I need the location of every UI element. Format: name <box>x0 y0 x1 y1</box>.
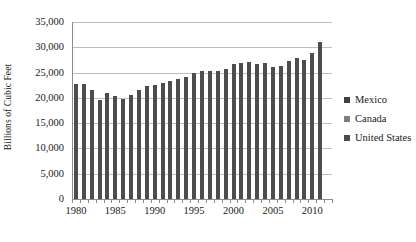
bar-slot <box>206 22 214 199</box>
legend-item[interactable]: United States <box>344 130 416 146</box>
x-axis-tick <box>96 199 97 203</box>
bar <box>145 86 149 199</box>
legend-item-label: Canada <box>355 114 387 125</box>
legend-item[interactable]: Canada <box>344 111 416 127</box>
x-axis-tick <box>245 199 246 203</box>
bar-slot <box>316 22 324 199</box>
bar <box>82 84 86 199</box>
chart-container: Billions of Cubic Feet 05,00010,00015,00… <box>0 0 416 242</box>
bar-slot <box>119 22 127 199</box>
x-axis-tick <box>127 199 128 203</box>
bar <box>232 64 236 199</box>
x-axis-tick-label: 1985 <box>105 206 126 217</box>
bar-slot <box>261 22 269 199</box>
bar <box>287 61 291 199</box>
x-axis-tick <box>206 199 207 203</box>
bar-slot <box>253 22 261 199</box>
y-axis-tick-label: 30,000 <box>35 42 64 53</box>
y-axis-tick-label: 35,000 <box>35 17 64 28</box>
x-axis-tick-label: 1995 <box>184 206 205 217</box>
bar <box>310 53 314 199</box>
y-axis-tick-label: 5,000 <box>40 169 64 180</box>
chart-legend: MexicoCanadaUnited States <box>344 92 416 149</box>
bar-slot <box>237 22 245 199</box>
x-axis-tick <box>261 199 262 203</box>
bar <box>113 96 117 199</box>
y-axis-tick-label: 20,000 <box>35 93 64 104</box>
bar <box>255 64 259 199</box>
x-axis-tick <box>182 199 183 203</box>
x-axis-tick <box>316 199 317 203</box>
bar-slot <box>293 22 301 199</box>
bar-slot <box>190 22 198 199</box>
bar-slot <box>104 22 112 199</box>
bar-slot <box>230 22 238 199</box>
bar-slot <box>182 22 190 199</box>
x-axis-tick <box>324 199 325 203</box>
bar <box>318 42 322 199</box>
bar <box>90 90 94 199</box>
bar <box>137 90 141 199</box>
bar-slot <box>285 22 293 199</box>
legend-item-label: Mexico <box>355 95 387 106</box>
bar-slot <box>324 22 332 199</box>
x-axis-tick <box>332 199 333 203</box>
x-axis-tick-label: 1990 <box>144 206 165 217</box>
y-axis-tick-label: 10,000 <box>35 143 64 154</box>
x-axis-tick <box>214 199 215 203</box>
y-axis-tick-label: 15,000 <box>35 118 64 129</box>
bar <box>200 71 204 199</box>
x-axis-tick <box>308 199 309 203</box>
bar <box>105 93 109 199</box>
x-axis-tick <box>230 199 231 203</box>
bar-slot <box>245 22 253 199</box>
x-axis-tick <box>135 199 136 203</box>
x-axis-tick <box>174 199 175 203</box>
x-axis-tick <box>277 199 278 203</box>
x-axis-tick <box>285 199 286 203</box>
bar-slot <box>222 22 230 199</box>
bar <box>302 60 306 199</box>
bars-layer <box>72 22 332 199</box>
bar-slot <box>96 22 104 199</box>
bar <box>168 81 172 199</box>
bar <box>271 67 275 199</box>
bar-slot <box>214 22 222 199</box>
bar-slot <box>151 22 159 199</box>
bar-slot <box>300 22 308 199</box>
x-axis-tick <box>111 199 112 203</box>
bar-slot <box>159 22 167 199</box>
bar <box>161 83 165 199</box>
bar <box>192 73 196 199</box>
y-axis-tick-label: 0 <box>59 194 64 205</box>
legend-swatch-icon <box>344 97 350 103</box>
legend-item[interactable]: Mexico <box>344 92 416 108</box>
x-axis-tick <box>143 199 144 203</box>
bar <box>184 77 188 199</box>
bar <box>239 63 243 199</box>
bar-slot <box>198 22 206 199</box>
bar-slot <box>72 22 80 199</box>
bar <box>98 100 102 199</box>
legend-item-label: United States <box>355 133 411 144</box>
x-axis-tick-label: 2000 <box>223 206 244 217</box>
bar <box>224 69 228 199</box>
bar-slot <box>88 22 96 199</box>
x-axis-tick <box>300 199 301 203</box>
bar-slot <box>80 22 88 199</box>
bar-slot <box>111 22 119 199</box>
bar-slot <box>277 22 285 199</box>
bar <box>121 99 125 199</box>
bar <box>129 95 133 199</box>
x-axis-tick <box>88 199 89 203</box>
bar <box>153 85 157 199</box>
x-axis-tick <box>269 199 270 203</box>
x-axis-tick-labels: 1980198519901995200020052010 <box>0 206 416 222</box>
bar-slot <box>269 22 277 199</box>
x-axis-tick <box>151 199 152 203</box>
bar <box>263 63 267 199</box>
x-axis-tick <box>104 199 105 203</box>
x-axis-tick <box>190 199 191 203</box>
x-axis-tick <box>80 199 81 203</box>
legend-swatch-icon <box>344 135 350 141</box>
